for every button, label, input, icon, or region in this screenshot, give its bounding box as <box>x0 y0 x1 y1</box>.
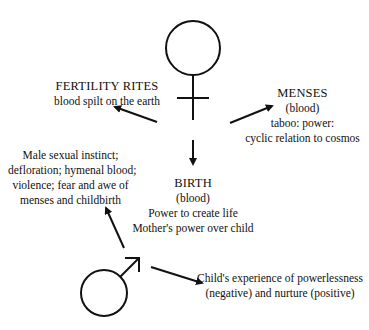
node-line: Mother's power over child <box>130 221 256 236</box>
node-line: menses and childbirth <box>8 193 133 208</box>
node-fertility-rites: FERTILITY RITES blood spilt on the earth <box>32 79 182 109</box>
node-line: Power to create life <box>130 206 256 221</box>
node-child-experience: Child's experience of powerlessness (neg… <box>195 271 365 301</box>
node-title: MENSES <box>240 86 365 101</box>
node-title: BIRTH <box>130 176 256 191</box>
node-line: blood spilt on the earth <box>32 94 182 109</box>
arrow-male-to-instinct <box>106 208 124 248</box>
node-line: (blood) <box>130 191 256 206</box>
node-line: defloration; hymenal blood; <box>8 163 133 178</box>
node-line: taboo: power: <box>240 116 365 131</box>
node-line: (blood) <box>240 101 365 116</box>
node-title: FERTILITY RITES <box>32 79 182 94</box>
node-line: Child's experience of powerlessness <box>195 271 365 286</box>
node-line: cyclic relation to cosmos <box>240 131 365 146</box>
node-line: Male sexual instinct; <box>8 148 133 163</box>
node-male-sexual-instinct: Male sexual instinct; defloration; hymen… <box>8 148 133 208</box>
node-line: (negative) and nurture (positive) <box>195 286 365 301</box>
node-menses: MENSES (blood) taboo: power: cyclic rela… <box>240 86 365 146</box>
male-symbol-icon <box>81 258 139 316</box>
arrow-female-to-fertility <box>115 107 157 122</box>
node-line: violence; fear and awe of <box>8 178 133 193</box>
node-birth: BIRTH (blood) Power to create life Mothe… <box>130 176 256 236</box>
